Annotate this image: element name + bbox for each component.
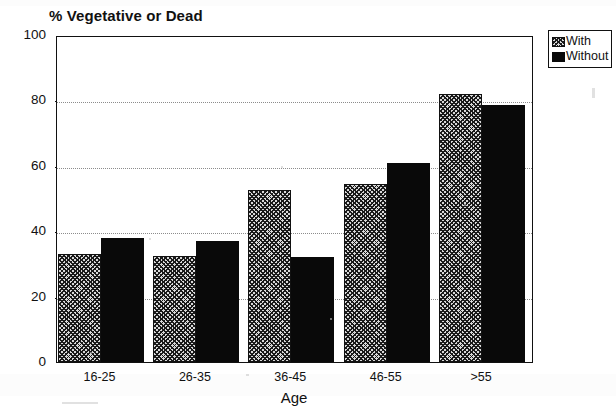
bar-without->55	[482, 105, 525, 362]
legend-item-without: Without	[552, 49, 609, 64]
y-tick-label-100: 100	[0, 27, 46, 42]
legend: WithWithout	[548, 30, 612, 68]
y-tick-label-60: 60	[0, 158, 46, 173]
legend-item-with: With	[552, 34, 609, 49]
scan-speck-2	[281, 166, 283, 168]
bar-with-26-35	[153, 256, 196, 362]
bar-with-46-55	[344, 184, 387, 362]
checkered-hatch-swatch	[552, 37, 565, 47]
y-tick-label-40: 40	[0, 223, 46, 238]
bar-with-36-45	[248, 190, 291, 362]
y-tick-label-20: 20	[0, 289, 46, 304]
chart-figure: % Vegetative or Dead 020406080100 16-252…	[0, 0, 616, 411]
scan-speck-1	[149, 238, 151, 240]
y-tick-label-0: 0	[0, 354, 46, 369]
legend-label-without: Without	[566, 50, 608, 63]
scan-speck-3	[90, 352, 92, 354]
bar-with-16-25	[58, 254, 101, 362]
bar-without-46-55	[387, 163, 430, 362]
legend-label-with: With	[566, 35, 591, 48]
scan-speck-5	[62, 402, 98, 404]
scan-speck-7	[464, 204, 466, 206]
chart-title: % Vegetative or Dead	[49, 7, 203, 24]
plot-area	[56, 36, 533, 363]
scan-speck-4	[330, 318, 332, 320]
bar-without-16-25	[101, 238, 144, 362]
scan-band-1	[0, 0, 616, 6]
bar-with->55	[439, 94, 482, 362]
bar-without-36-45	[291, 257, 334, 362]
y-tick-label-80: 80	[0, 92, 46, 107]
solid-black-swatch	[552, 52, 565, 62]
scan-speck-0	[592, 88, 595, 98]
bar-without-26-35	[196, 241, 239, 362]
scan-band-0	[0, 374, 616, 396]
bar-series-layer	[57, 37, 532, 362]
